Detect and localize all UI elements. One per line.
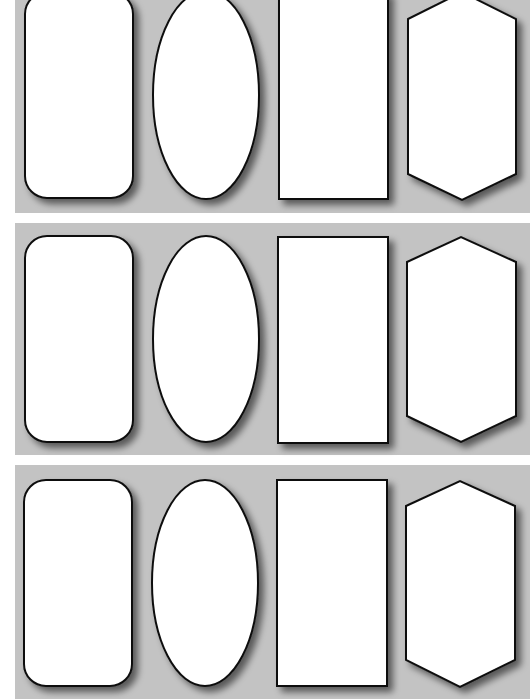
rectangle-shape [277,480,387,686]
ellipse-shape [152,480,258,686]
rounded-rectangle-shape [25,236,133,442]
rounded-rectangle-shape [25,0,133,198]
hexagon-shape [406,481,515,687]
band-2 [15,223,530,455]
template-sheet [0,0,530,699]
band-1 [15,0,530,213]
band-3-shapes [0,465,530,699]
rounded-rectangle-shape [24,480,132,686]
band-1-shapes [0,0,530,213]
ellipse-shape [153,0,259,199]
rectangle-shape [279,0,388,199]
ellipse-shape [153,236,259,442]
band-3 [15,465,530,699]
rectangle-shape [278,237,388,443]
band-2-shapes [0,223,530,455]
hexagon-shape [407,237,516,442]
hexagon-shape [408,0,516,200]
